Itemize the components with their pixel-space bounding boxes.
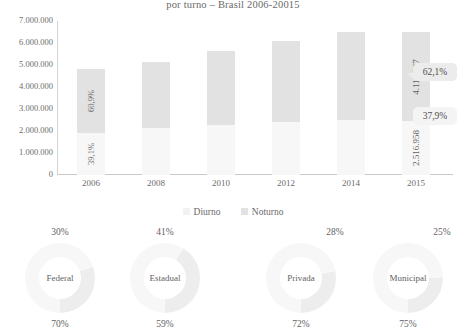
bar-2010-noturno [207, 51, 235, 125]
donut-municipal-bottom-pct: 75% [356, 319, 460, 329]
bar-2008-diurno [142, 128, 170, 175]
bar-2010-diurno [207, 125, 235, 175]
plot-area: 60,9% 39,1% 4.116.58 [57, 21, 453, 175]
bar-2012-diurno [272, 122, 300, 175]
bar-2015-diurno-value: 2.516.958 [411, 130, 421, 166]
donut-chart-row: Federal 30% 70% Estadual 41% 59% Privada… [0, 227, 466, 329]
bar-2014-noturno [337, 32, 365, 120]
donut-estadual-hole: Estadual [144, 257, 186, 299]
callout-noturno-pct: 62,1% [413, 63, 457, 81]
chart-legend: Diurno Noturno [0, 207, 466, 217]
donut-federal-hole: Federal [39, 257, 81, 299]
y-tick-0: 0 [0, 169, 53, 179]
bar-2010[interactable] [207, 51, 235, 175]
legend-swatch-noturno [241, 208, 248, 215]
x-axis-labels: 2006 2008 2010 2012 2014 2015 [57, 178, 453, 194]
donut-municipal-hole: Municipal [387, 257, 429, 299]
donut-estadual-bottom-pct: 59% [113, 319, 217, 329]
bar-2006-noturno: 60,9% [77, 69, 105, 133]
donut-federal-ring: Federal [25, 243, 95, 313]
donut-federal[interactable]: Federal 30% 70% [8, 227, 112, 329]
donut-privada[interactable]: Privada 28% 72% [249, 227, 353, 329]
y-tick-6000000: 6.000.000 [0, 37, 53, 47]
legend-label-diurno: Diurno [194, 207, 221, 217]
donut-estadual-top-pct: 41% [113, 227, 217, 237]
x-tick-2014: 2014 [331, 178, 371, 188]
x-tick-2006: 2006 [71, 178, 111, 188]
donut-estadual-label: Estadual [144, 273, 186, 283]
donut-municipal-ring: Municipal [373, 243, 443, 313]
legend-item-diurno[interactable]: Diurno [183, 207, 221, 217]
bar-2008-noturno [142, 62, 170, 128]
legend-swatch-diurno [183, 208, 190, 215]
bar-2006-noturno-label: 60,9% [86, 90, 96, 112]
donut-privada-hole: Privada [280, 257, 322, 299]
chart-title: por turno – Brasil 2006-20015 [0, 0, 466, 10]
bar-2012[interactable] [272, 41, 300, 175]
x-tick-2010: 2010 [201, 178, 241, 188]
x-tick-2008: 2008 [136, 178, 176, 188]
donut-privada-label: Privada [280, 273, 322, 283]
bar-2012-noturno [272, 41, 300, 122]
x-tick-2015: 2015 [396, 178, 436, 188]
bar-2008[interactable] [142, 62, 170, 175]
donut-estadual[interactable]: Estadual 41% 59% [113, 227, 217, 329]
bar-2014-diurno [337, 120, 365, 175]
bar-2006[interactable]: 60,9% 39,1% [77, 69, 105, 175]
donut-federal-label: Federal [39, 273, 81, 283]
donut-privada-ring: Privada [266, 243, 336, 313]
y-tick-5000000: 5.000.000 [0, 59, 53, 69]
y-tick-4000000: 4.000.000 [0, 81, 53, 91]
donut-privada-bottom-pct: 72% [249, 319, 353, 329]
bar-2006-diurno: 39,1% [77, 133, 105, 175]
x-tick-2012: 2012 [266, 178, 306, 188]
callout-diurno-pct: 37,9% [413, 107, 457, 125]
donut-municipal[interactable]: Municipal 25% 75% [356, 227, 460, 329]
legend-item-noturno[interactable]: Noturno [241, 207, 284, 217]
bar-2006-diurno-label: 39,1% [86, 143, 96, 165]
bar-2015-diurno: 2.516.958 [402, 121, 430, 175]
donut-federal-bottom-pct: 70% [8, 319, 112, 329]
y-tick-3000000: 3.000.000 [0, 103, 53, 113]
donut-municipal-label: Municipal [387, 273, 429, 283]
donut-estadual-ring: Estadual [130, 243, 200, 313]
y-tick-2000000: 2.000.000 [0, 125, 53, 135]
bar-2015[interactable]: 4.116.587 2.516.958 [402, 32, 430, 175]
bar-2014[interactable] [337, 32, 365, 175]
legend-label-noturno: Noturno [252, 207, 284, 217]
bar-chart: 7.000.000 6.000.000 5.000.000 4.000.000 … [0, 16, 466, 216]
y-tick-1000000: 1.000.000 [0, 147, 53, 157]
y-tick-7000000: 7.000.000 [0, 15, 53, 25]
donut-federal-top-pct: 30% [8, 227, 112, 237]
y-axis-labels: 7.000.000 6.000.000 5.000.000 4.000.000 … [0, 16, 53, 176]
donut-municipal-top-pct: 25% [356, 227, 466, 237]
